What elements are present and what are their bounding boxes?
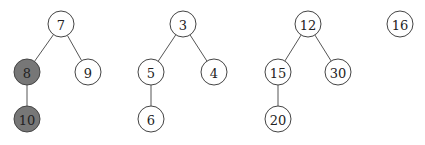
heap-forest-diagram: 7891035461215302016 (0, 0, 425, 145)
node-label: 20 (270, 113, 287, 128)
edge-3-5 (158, 35, 176, 61)
edge-12-30 (315, 35, 331, 61)
node-label: 9 (84, 66, 92, 81)
edge-7-9 (67, 35, 81, 60)
tree-node: 5 (138, 59, 164, 85)
edge-7-8 (35, 35, 54, 62)
edge-3-4 (190, 35, 207, 61)
nodes-layer: 7891035461215302016 (14, 11, 413, 132)
tree-node: 4 (201, 59, 227, 85)
node-label: 6 (147, 113, 155, 128)
node-label: 30 (330, 66, 347, 81)
tree-node: 30 (325, 59, 351, 85)
node-label: 3 (179, 18, 187, 33)
tree-node: 10 (14, 106, 40, 132)
node-label: 15 (270, 66, 287, 81)
node-label: 4 (210, 66, 218, 81)
node-label: 8 (23, 66, 31, 81)
edge-12-15 (285, 35, 301, 61)
tree-node: 16 (387, 11, 413, 37)
tree-node: 6 (138, 106, 164, 132)
tree-node: 9 (75, 59, 101, 85)
node-label: 12 (300, 18, 317, 33)
node-label: 7 (57, 18, 65, 33)
tree-node: 7 (48, 11, 74, 37)
tree-node: 8 (14, 59, 40, 85)
node-label: 16 (392, 18, 409, 33)
node-label: 5 (147, 66, 155, 81)
tree-node: 20 (265, 106, 291, 132)
tree-node: 12 (295, 11, 321, 37)
node-label: 10 (19, 113, 36, 128)
tree-node: 3 (170, 11, 196, 37)
tree-node: 15 (265, 59, 291, 85)
